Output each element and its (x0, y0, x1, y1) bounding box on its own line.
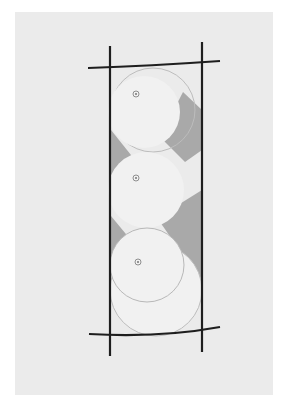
circle-top (108, 76, 180, 148)
top-curved-line (88, 61, 220, 68)
circle-stack-diagram (0, 0, 281, 409)
circle-middle (108, 152, 184, 228)
figure-caption (15, 402, 273, 409)
circle-bottom (110, 228, 184, 302)
